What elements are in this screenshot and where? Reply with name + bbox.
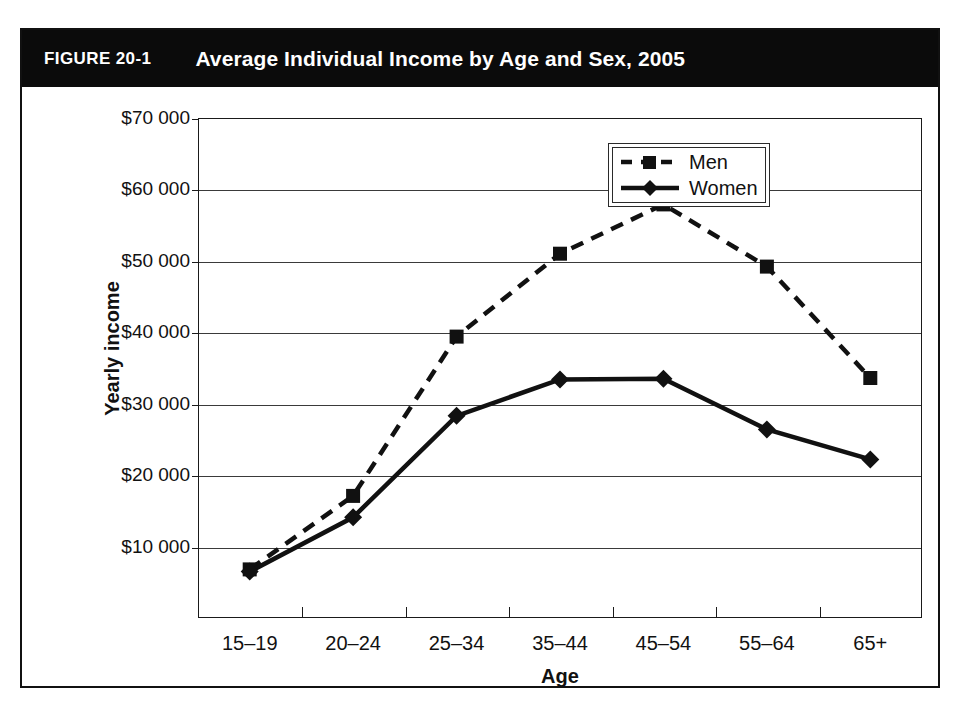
- legend-item-men[interactable]: Men: [619, 150, 759, 174]
- legend-swatch-diamond-icon: [619, 178, 681, 198]
- y-tick-label: $60 000: [40, 178, 190, 200]
- data-point-marker-men: [450, 330, 464, 344]
- y-axis-title: Yearly income: [101, 249, 124, 449]
- x-axis-title: Age: [198, 665, 922, 688]
- legend-swatch-square-icon: [619, 152, 681, 172]
- x-tick-label: 15–19: [190, 632, 310, 655]
- x-tick-label: 35–44: [500, 632, 620, 655]
- data-point-marker-men: [553, 247, 567, 261]
- legend-label: Women: [689, 177, 758, 200]
- figure-container: FIGURE 20-1 Average Individual Income by…: [20, 28, 940, 688]
- x-tick-label: 25–34: [397, 632, 517, 655]
- chart-legend: MenWomen: [608, 143, 770, 207]
- x-axis-tick-labels: 15–1920–2425–3435–4445–5455–6465+: [198, 632, 922, 662]
- x-tick-label: 55–64: [707, 632, 827, 655]
- x-tick-label: 65+: [810, 632, 930, 655]
- legend-inner-box: MenWomen: [612, 147, 766, 203]
- y-tick-label: $20 000: [40, 464, 190, 486]
- figure-title-label: Average Individual Income by Age and Sex…: [195, 47, 685, 71]
- x-tick-label: 20–24: [293, 632, 413, 655]
- legend-label: Men: [689, 151, 728, 174]
- x-tick-label: 45–54: [603, 632, 723, 655]
- data-point-marker-women: [551, 370, 569, 388]
- data-point-marker-men: [863, 371, 877, 385]
- data-point-marker-women: [861, 450, 879, 468]
- figure-number-label: FIGURE 20-1: [44, 49, 151, 69]
- data-point-marker-men: [760, 260, 774, 274]
- y-tick-label: $10 000: [40, 536, 190, 558]
- y-tick-label: $70 000: [40, 107, 190, 129]
- data-point-marker-women: [758, 420, 776, 438]
- series-line-women: [250, 379, 871, 572]
- series-layer: [198, 118, 922, 618]
- legend-item-women[interactable]: Women: [619, 176, 759, 200]
- data-point-marker-men: [346, 489, 360, 503]
- data-point-marker-women: [654, 370, 672, 388]
- figure-title-bar: FIGURE 20-1 Average Individual Income by…: [22, 30, 938, 87]
- chart-area: $10 000$20 000$30 000$40 000$50 000$60 0…: [22, 87, 938, 686]
